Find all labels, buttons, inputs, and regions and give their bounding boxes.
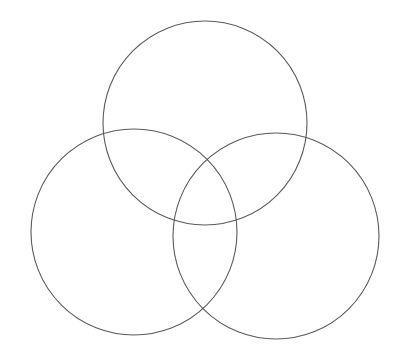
venn-diagram — [0, 0, 406, 361]
circle-top — [103, 21, 307, 225]
venn-svg — [0, 0, 406, 361]
